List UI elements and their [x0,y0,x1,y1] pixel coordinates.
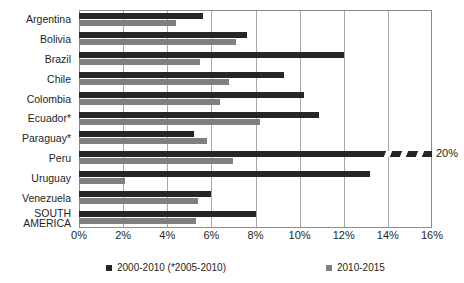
x-axis-labels: 0%2%4%6%8%10%12%14%16% [0,229,464,245]
bar-row-paraguay [79,129,432,149]
bar-row-chile [79,69,432,89]
bar-row-south-america [79,208,432,228]
bar-chart: Argentina Bolivia Brazil Chile Colombia … [0,0,464,283]
bar-brazil-2010-2015 [79,59,200,65]
y-label-chile: Chile [0,69,75,89]
bar-row-venezuela [79,188,432,208]
legend-item-2000-2010: 2000-2010 (*2005-2010) [106,262,226,273]
bar-row-bolivia [79,30,432,50]
bar-venezuela-2010-2015 [79,198,198,204]
y-label-south-america: SOUTH AMERICA [0,208,75,228]
x-tick-2pct: 2% [115,229,131,241]
bar-uruguay-2010-2015 [79,178,125,184]
y-label-paraguay: Paraguay* [0,129,75,149]
x-tick-14pct: 14% [377,229,399,241]
y-label-argentina: Argentina [0,10,75,30]
bar-peru-2000-2010 [79,151,432,157]
x-tick-12pct: 12% [333,229,355,241]
y-label-south-america-line2: AMERICA [23,218,71,229]
bar-ecuador-2000-2010 [79,112,319,118]
bar-uruguay-2000-2010 [79,171,370,177]
y-label-peru: Peru [0,149,75,169]
legend-item-2010-2015: 2010-2015 [326,262,385,273]
legend-swatch-dark [106,265,112,271]
y-label-uruguay: Uruguay [0,169,75,189]
bar-row-argentina [79,10,432,30]
bar-bolivia-2010-2015 [79,39,236,45]
x-tick-8pct: 8% [248,229,264,241]
x-tick-10pct: 10% [289,229,311,241]
bar-argentina-2000-2010 [79,13,203,19]
bar-colombia-2010-2015 [79,99,220,105]
y-label-ecuador: Ecuador* [0,109,75,129]
bar-colombia-2000-2010 [79,92,304,98]
chart-legend: 2000-2010 (*2005-2010) 2010-2015 [0,262,464,278]
bar-chile-2010-2015 [79,79,229,85]
bar-south-america-2000-2010 [79,211,256,217]
y-label-venezuela: Venezuela [0,188,75,208]
bar-rows [79,10,432,228]
axis-break-label: 20% [436,147,458,159]
legend-label-2000-2010: 2000-2010 (*2005-2010) [117,262,226,273]
bar-paraguay-2000-2010 [79,131,194,137]
bar-paraguay-2010-2015 [79,138,207,144]
legend-swatch-light [326,265,332,271]
bar-row-colombia [79,89,432,109]
y-label-bolivia: Bolivia [0,30,75,50]
bar-row-uruguay [79,169,432,189]
legend-label-2010-2015: 2010-2015 [337,262,385,273]
x-tick-4pct: 4% [159,229,175,241]
bar-venezuela-2000-2010 [79,191,211,197]
bar-brazil-2000-2010 [79,52,344,58]
x-tick-6pct: 6% [203,229,219,241]
bar-argentina-2010-2015 [79,20,176,26]
bar-row-ecuador [79,109,432,129]
y-label-colombia: Colombia [0,89,75,109]
bar-chile-2000-2010 [79,72,284,78]
y-axis-labels: Argentina Bolivia Brazil Chile Colombia … [0,10,75,228]
bar-row-brazil [79,50,432,70]
bar-row-peru [79,149,432,169]
y-label-brazil: Brazil [0,50,75,70]
x-tick-0pct: 0% [71,229,87,241]
bar-south-america-2010-2015 [79,218,196,224]
bar-bolivia-2000-2010 [79,32,247,38]
bar-ecuador-2010-2015 [79,119,260,125]
x-tick-16pct: 16% [421,229,443,241]
bar-peru-2010-2015 [79,158,233,164]
